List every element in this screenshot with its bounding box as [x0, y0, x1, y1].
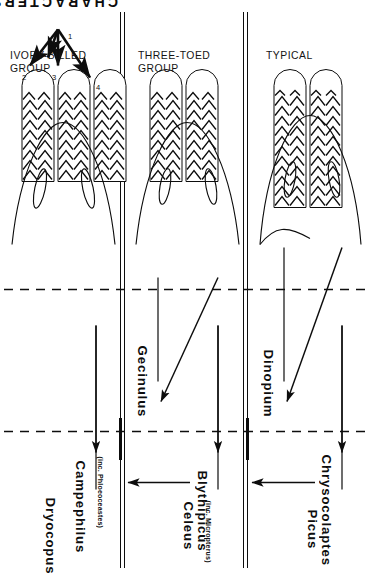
genus-subtitle-celeus: (inc. Micropterus): [204, 500, 212, 562]
group-label-typical-line1: TYPICAL: [266, 49, 313, 60]
group-label-typical: TYPICAL: [266, 49, 313, 62]
character-number-2: 2: [22, 72, 26, 81]
genus-label-picus: Picus: [305, 509, 320, 549]
genus-label-chrysocolaptes: Chrysocolaptes: [319, 454, 334, 566]
genus-label-celeus: Celeus: [181, 501, 196, 550]
figure-canvas: Campephilus (inc. Phloeoceastes) Blythip…: [0, 0, 370, 577]
character-number-4: 4: [96, 82, 100, 91]
group-label-ivory-billed-line2: GROUP: [10, 62, 51, 73]
page-title: CHARACTERS: [0, 0, 118, 9]
character-number-3: 3: [52, 72, 56, 81]
character-number-1: 1: [68, 31, 72, 40]
genus-label-gecinulus: Gecinulus: [135, 345, 150, 417]
label-layer: Campephilus (inc. Phloeoceastes) Blythip…: [0, 0, 370, 577]
group-label-ivory-billed: IVORY-BILLED GROUP: [10, 49, 86, 74]
genus-subtitle-campephilus: (inc. Phloeoceastes): [96, 456, 104, 528]
group-label-three-toed-line2: GROUP: [138, 62, 179, 73]
group-label-ivory-billed-line1: IVORY-BILLED: [10, 49, 86, 60]
group-label-three-toed: THREE-TOED GROUP: [138, 49, 210, 74]
group-label-three-toed-line1: THREE-TOED: [138, 49, 210, 60]
genus-label-dryocopus: Dryocopus: [43, 497, 58, 574]
genus-label-dinopium: Dinopium: [261, 349, 276, 417]
genus-label-campephilus: Campephilus: [73, 460, 88, 553]
